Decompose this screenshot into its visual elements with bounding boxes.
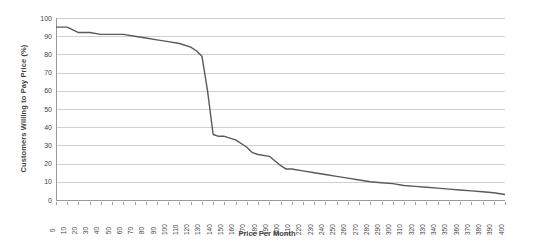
chart-container: Customers Willing to Pay Price (%) 01020… (0, 0, 534, 251)
x-tick-mark (146, 202, 147, 205)
x-tick-mark (426, 202, 427, 205)
y-tick-label: 60 (22, 87, 52, 94)
y-tick-label: 10 (22, 178, 52, 185)
x-tick-mark (382, 202, 383, 205)
x-tick-mark (438, 202, 439, 205)
y-tick-label: 50 (22, 106, 52, 113)
y-tick-label: 70 (22, 69, 52, 76)
x-tick-mark (202, 202, 203, 205)
x-tick-mark (101, 202, 102, 205)
y-tick-label: 100 (22, 15, 52, 22)
x-tick-mark (281, 202, 282, 205)
x-tick-mark (179, 202, 180, 205)
data-series-line (56, 18, 505, 200)
x-tick-mark (471, 202, 472, 205)
x-tick-mark (67, 202, 68, 205)
x-tick-mark (415, 202, 416, 205)
x-tick-mark (393, 202, 394, 205)
x-tick-mark (90, 202, 91, 205)
y-tick-label: 20 (22, 160, 52, 167)
x-tick-mark (505, 202, 506, 205)
x-tick-mark (494, 202, 495, 205)
x-tick-mark (191, 202, 192, 205)
x-tick-mark (359, 202, 360, 205)
x-tick-mark (483, 202, 484, 205)
y-tick-label: 30 (22, 142, 52, 149)
x-tick-mark (348, 202, 349, 205)
y-tick-label: 40 (22, 124, 52, 131)
x-tick-mark (337, 202, 338, 205)
y-tick-label: 0 (22, 197, 52, 204)
x-tick-mark (460, 202, 461, 205)
x-tick-mark (258, 202, 259, 205)
x-tick-mark (404, 202, 405, 205)
x-axis-title: Price Per Month (0, 229, 534, 238)
x-tick-mark (370, 202, 371, 205)
x-axis-tick-labels: 0102030405060708090100110120130140150160… (56, 202, 505, 230)
x-tick-mark (292, 202, 293, 205)
x-tick-mark (123, 202, 124, 205)
x-tick-mark (224, 202, 225, 205)
x-tick-mark (168, 202, 169, 205)
x-tick-mark (247, 202, 248, 205)
y-tick-label: 90 (22, 33, 52, 40)
x-tick-mark (157, 202, 158, 205)
x-tick-mark (449, 202, 450, 205)
x-tick-mark (303, 202, 304, 205)
chart-plot-area (56, 18, 505, 200)
x-tick-mark (112, 202, 113, 205)
x-tick-mark (213, 202, 214, 205)
y-axis-tick-labels: 0102030405060708090100 (20, 0, 52, 251)
x-tick-mark (269, 202, 270, 205)
x-tick-mark (56, 202, 57, 205)
x-tick-mark (325, 202, 326, 205)
x-tick-mark (314, 202, 315, 205)
x-axis-line (56, 200, 505, 201)
x-tick-mark (135, 202, 136, 205)
x-tick-mark (78, 202, 79, 205)
y-tick-label: 80 (22, 51, 52, 58)
x-tick-mark (236, 202, 237, 205)
